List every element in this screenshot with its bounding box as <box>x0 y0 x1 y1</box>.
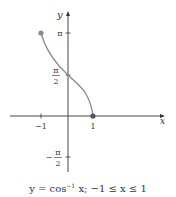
y-tick-label-pi-half: π 2 <box>52 66 60 86</box>
caption-rhs: x; −1 ≤ x ≤ 1 <box>75 183 147 194</box>
endpoint-left-dot <box>38 30 43 35</box>
svg-text:−: − <box>46 153 53 162</box>
x-axis-label: x <box>160 116 165 126</box>
y-tick-label-neg-pi-half: − π 2 <box>46 148 62 168</box>
caption-exponent: −1 <box>66 182 75 189</box>
chart-canvas: y x −1 1 π π 2 − π 2 <box>0 0 176 197</box>
arccos-curve <box>41 33 93 116</box>
chart-caption: y = cos−1 x; −1 ≤ x ≤ 1 <box>0 182 176 194</box>
svg-text:2: 2 <box>55 159 60 168</box>
y-axis-label: y <box>56 9 63 20</box>
x-tick-label-neg1: −1 <box>35 122 47 131</box>
svg-text:π: π <box>55 148 60 157</box>
svg-text:π: π <box>53 66 58 75</box>
endpoint-right-dot <box>90 113 95 118</box>
y-axis-arrow-icon <box>66 11 70 16</box>
x-tick-label-1: 1 <box>90 122 95 131</box>
y-tick-label-pi: π <box>57 29 62 38</box>
svg-text:2: 2 <box>53 77 58 86</box>
caption-lhs: y = cos <box>29 183 66 194</box>
